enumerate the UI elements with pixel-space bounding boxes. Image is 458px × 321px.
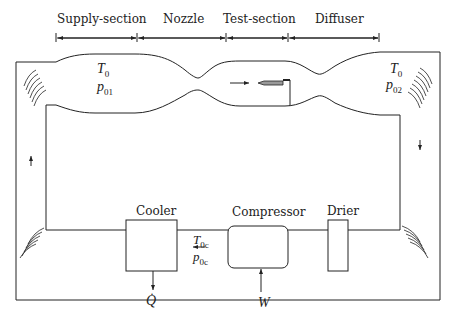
symbol-heat-rate: Q̇ xyxy=(146,294,156,308)
symbol-work: W xyxy=(258,296,270,310)
turning-vanes-top-right xyxy=(408,68,432,108)
label-cooler: Cooler xyxy=(136,204,176,218)
test-model xyxy=(258,81,283,85)
symbol-return-pressure: p0c xyxy=(193,250,208,267)
label-supply-section: Supply-section xyxy=(57,12,147,26)
wind-tunnel-diagram: Supply-section Nozzle Test-section Diffu… xyxy=(0,0,458,321)
turning-vanes-bottom-right xyxy=(402,226,428,258)
turning-vanes-top-left xyxy=(24,70,46,106)
turning-vanes-bottom-left xyxy=(20,228,44,258)
symbol-return-temperature: T0c xyxy=(193,233,209,250)
label-drier: Drier xyxy=(327,204,359,218)
label-diffuser: Diffuser xyxy=(315,12,364,26)
label-compressor: Compressor xyxy=(232,205,306,219)
symbol-supply-temperature: T0 xyxy=(97,62,109,79)
section-dimension-lines xyxy=(56,33,379,42)
label-nozzle: Nozzle xyxy=(163,12,204,26)
symbol-supply-pressure: p01 xyxy=(97,80,113,97)
diagram-canvas xyxy=(0,0,458,321)
label-test-section: Test-section xyxy=(223,12,296,26)
drier-box xyxy=(328,220,348,271)
cooler-box xyxy=(126,220,177,271)
compressor-box xyxy=(228,226,288,268)
symbol-diffuser-pressure: p02 xyxy=(386,78,402,95)
